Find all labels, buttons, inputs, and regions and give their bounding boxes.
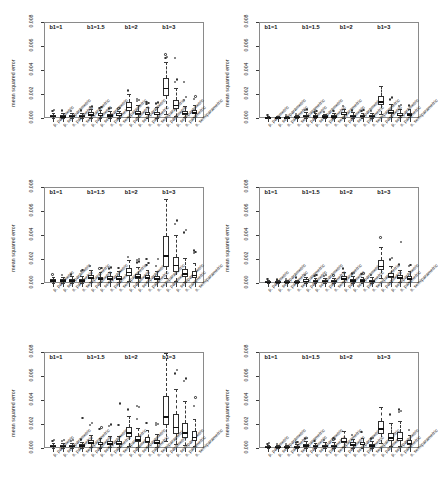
whisker-lower <box>166 96 167 115</box>
outlier-point <box>193 98 195 100</box>
whisker-cap-upper <box>398 421 402 422</box>
box <box>182 423 188 438</box>
whisker-cap-upper <box>389 423 393 424</box>
whisker-cap-upper <box>136 428 140 429</box>
boxplot-panel-row3-left: mean squared error0.0000.0020.0040.0060.… <box>0 330 214 495</box>
median-line <box>116 443 122 444</box>
y-tick-label: 0.002 <box>223 255 253 261</box>
whisker-cap-lower <box>379 443 383 444</box>
whisker-upper <box>166 62 167 79</box>
outlier-point <box>61 109 63 111</box>
median-line <box>182 113 188 114</box>
whisker-lower <box>381 105 382 114</box>
outlier-point <box>176 219 178 221</box>
median-line <box>126 432 132 433</box>
whisker-cap-upper <box>389 266 393 267</box>
strip-header-b1=2: b1=2 <box>125 354 138 360</box>
whisker-cap-upper <box>89 435 93 436</box>
y-tick-mark <box>41 118 44 119</box>
y-tick-label: 0.002 <box>8 90 38 96</box>
y-tick-label: 0.008 <box>223 18 253 24</box>
outlier-point <box>110 107 112 109</box>
whisker-cap-upper <box>332 113 336 114</box>
whisker-lower <box>381 434 382 444</box>
y-tick-label: 0.008 <box>223 348 253 354</box>
median-line <box>145 114 151 115</box>
whisker-cap-upper <box>370 441 374 442</box>
whisker-cap-upper <box>146 270 150 271</box>
median-line <box>145 441 151 442</box>
whisker-cap-upper <box>164 62 168 63</box>
median-line <box>182 273 188 274</box>
median-line <box>154 114 160 115</box>
outlier-point <box>194 396 196 398</box>
whisker-upper <box>400 421 401 432</box>
y-tick-label-text: 0.000 <box>29 111 35 124</box>
whisker-cap-upper <box>155 107 159 108</box>
outlier-point <box>100 267 102 269</box>
median-line <box>135 439 141 440</box>
outlier-point <box>379 236 381 238</box>
median-line <box>303 445 309 446</box>
y-tick-label: 0.006 <box>8 372 38 378</box>
median-line <box>397 277 403 278</box>
whisker-cap-upper <box>361 438 365 439</box>
y-tick-label-text: 0.006 <box>29 204 35 217</box>
whisker-upper <box>391 423 392 433</box>
outlier-point <box>164 53 166 55</box>
median-line <box>397 115 403 116</box>
strip-header-b1=3: b1=3 <box>162 354 175 360</box>
y-tick-label-text: 0.002 <box>244 87 250 100</box>
y-tick-label-text: 0.000 <box>244 441 250 454</box>
median-line <box>303 116 309 117</box>
strip-header-b1=1: b1=1 <box>49 189 62 195</box>
whisker-upper <box>381 247 382 260</box>
whisker-upper <box>176 235 177 257</box>
y-tick-mark <box>256 283 259 284</box>
whisker-cap-upper <box>193 263 197 264</box>
y-tick-label: 0.006 <box>8 42 38 48</box>
strip-header-b1=2: b1=2 <box>125 24 138 30</box>
whisker-lower <box>176 109 177 116</box>
whisker-cap-lower <box>174 116 178 117</box>
whisker-cap-lower <box>164 278 168 279</box>
whisker-cap-upper <box>61 443 65 444</box>
whisker-cap-upper <box>183 106 187 107</box>
y-tick-label: 0.004 <box>8 396 38 402</box>
y-tick-label-text: 0.000 <box>29 276 35 289</box>
whisker-upper <box>185 258 186 269</box>
median-line <box>69 280 75 281</box>
y-tick-label: 0.002 <box>8 255 38 261</box>
y-axis-label: mean squared error <box>221 165 233 330</box>
median-line <box>135 113 141 114</box>
median-line <box>369 281 375 282</box>
y-tick-label: 0.008 <box>223 183 253 189</box>
outlier-point <box>80 109 82 111</box>
whisker-cap-upper <box>398 109 402 110</box>
whisker-lower <box>176 434 177 445</box>
whisker-cap-upper <box>52 113 56 114</box>
whisker-cap-upper <box>61 277 65 278</box>
outlier-point <box>276 278 278 280</box>
whisker-cap-upper <box>408 271 412 272</box>
y-tick-label: 0.004 <box>223 66 253 72</box>
whisker-cap-upper <box>70 443 74 444</box>
median-line <box>98 444 104 445</box>
outlier-point <box>306 437 308 439</box>
median-line <box>350 280 356 281</box>
median-line <box>182 432 188 433</box>
strip-header-b1=3: b1=3 <box>162 189 175 195</box>
outlier-point <box>110 423 112 425</box>
y-tick-mark <box>256 448 259 449</box>
median-line <box>50 280 56 281</box>
whisker-cap-lower <box>164 441 168 442</box>
outlier-point <box>295 113 297 115</box>
y-axis-label: mean squared error <box>7 165 19 330</box>
whisker-cap-upper <box>155 434 159 435</box>
median-line <box>388 276 394 277</box>
y-tick-label: 0.006 <box>223 207 253 213</box>
median-line <box>378 266 384 267</box>
whisker-cap-upper <box>136 105 140 106</box>
median-line <box>322 446 328 447</box>
outlier-point <box>295 276 297 278</box>
